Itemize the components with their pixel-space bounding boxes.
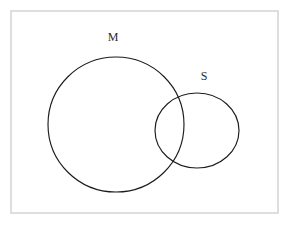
diagram-canvas: M S xyxy=(0,0,291,227)
universe-frame xyxy=(11,11,278,213)
set-label-m: M xyxy=(108,30,119,44)
euler-diagram: M S xyxy=(0,0,291,227)
set-label-s: S xyxy=(201,69,208,83)
